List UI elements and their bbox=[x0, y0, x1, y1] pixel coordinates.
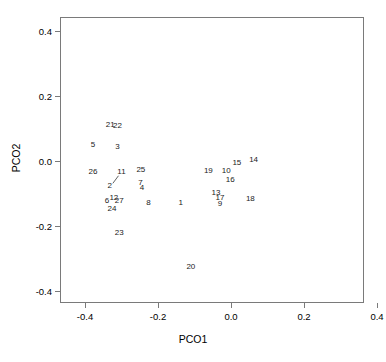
scatter-plot-figure: 1234567891011121314151617181920212223242… bbox=[0, 0, 386, 362]
x-axis-label: PCO1 bbox=[0, 333, 386, 345]
y-tick-label: -0.4 bbox=[12, 286, 52, 297]
x-tick-label: -0.2 bbox=[150, 311, 166, 322]
y-tick-mark bbox=[55, 291, 60, 292]
x-tick-label: 0.2 bbox=[297, 311, 310, 322]
y-tick-label: 0.2 bbox=[12, 91, 52, 102]
x-tick-mark bbox=[85, 303, 86, 308]
y-tick-mark bbox=[55, 31, 60, 32]
x-tick-mark bbox=[304, 303, 305, 308]
y-tick-label: 0.4 bbox=[12, 26, 52, 37]
y-tick-label: -0.2 bbox=[12, 221, 52, 232]
plot-area-frame bbox=[60, 17, 364, 303]
x-tick-mark bbox=[231, 303, 232, 308]
x-tick-mark bbox=[377, 303, 378, 308]
x-tick-label: 0.0 bbox=[224, 311, 237, 322]
y-tick-mark bbox=[55, 226, 60, 227]
x-tick-mark bbox=[158, 303, 159, 308]
y-tick-mark bbox=[55, 161, 60, 162]
y-axis-label: PCO2 bbox=[10, 108, 22, 208]
x-tick-label: 0.4 bbox=[370, 311, 383, 322]
y-tick-mark bbox=[55, 96, 60, 97]
x-tick-label: -0.4 bbox=[77, 311, 93, 322]
